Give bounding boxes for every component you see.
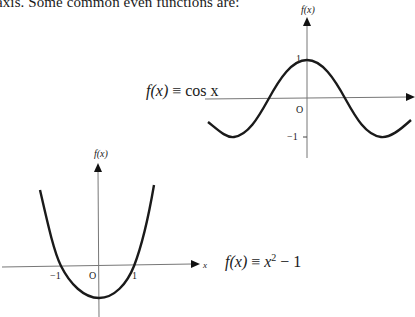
cos-tick-neg-label: −1	[287, 131, 298, 142]
parabola-tick-left-label: −1	[50, 270, 61, 281]
cos-y-label: f(x)	[301, 4, 316, 16]
parabola-x-label: x	[202, 260, 207, 270]
parabola-x-axis	[2, 264, 192, 267]
cos-tick-pos-label: 1	[296, 53, 301, 64]
parabola-y-axis	[98, 170, 99, 317]
parabola-tick-right-label: 1	[132, 270, 137, 281]
cos-y-arrow-icon	[303, 17, 311, 26]
cos-graph: f(x) 1 O −1	[205, 4, 415, 158]
parabola-curve	[40, 185, 154, 298]
cos-origin-label: O	[296, 104, 303, 115]
parabola-y-arrow-icon	[94, 163, 102, 172]
parabola-graph: x f(x) −1 O 1	[2, 148, 207, 317]
parabola-origin-label: O	[89, 270, 96, 281]
parabola-y-label: f(x)	[94, 148, 109, 160]
parabola-x-arrow-icon	[191, 260, 200, 268]
graphs-figure: f(x) 1 O −1 x f(x) −1 O 1	[0, 0, 415, 317]
cos-x-arrow-icon	[406, 93, 415, 101]
